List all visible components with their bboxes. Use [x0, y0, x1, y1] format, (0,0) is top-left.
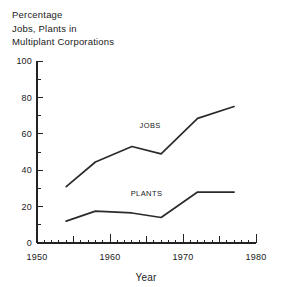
chart-figure: Percentage Jobs, Plants in Multiplant Co…: [0, 0, 282, 287]
x-tick-label: 1950: [27, 252, 48, 262]
x-axis: 1950196019701980: [27, 234, 267, 262]
y-tick-label: 20: [22, 202, 32, 212]
series-label-jobs: JOBS: [140, 121, 161, 130]
y-axis: 020406080100: [16, 56, 43, 248]
y-tick-label: 0: [27, 238, 32, 248]
series-label-plants: PLANTS: [131, 189, 163, 198]
y-tick-label: 60: [22, 129, 32, 139]
y-tick-label: 40: [22, 165, 32, 175]
y-tick-label: 100: [16, 56, 32, 66]
series-labels-group: JOBSPLANTS: [131, 121, 163, 197]
series-line-jobs: [66, 107, 234, 187]
x-axis-title: Year: [135, 272, 156, 283]
chart-plot-area: 020406080100 1950196019701980 JOBSPLANTS…: [0, 0, 282, 287]
x-tick-label: 1970: [173, 252, 194, 262]
y-tick-label: 80: [22, 93, 32, 103]
x-tick-label: 1980: [246, 252, 267, 262]
x-tick-label: 1960: [100, 252, 121, 262]
